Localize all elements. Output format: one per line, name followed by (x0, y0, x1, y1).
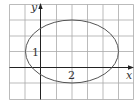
grid (10, 5, 134, 100)
axes (10, 7, 131, 100)
label-2: 2 (68, 69, 75, 82)
y-axis-arrow-icon (38, 3, 42, 9)
x-axis-label: x (126, 69, 133, 82)
label-1: 1 (32, 46, 39, 59)
y-axis-label: y (30, 1, 38, 14)
ellipse-graph: y x 1 2 (0, 0, 134, 111)
